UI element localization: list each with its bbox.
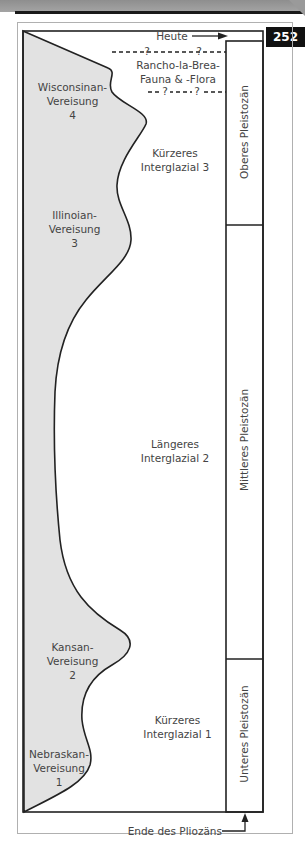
fauna-label-line2: Fauna & -Flora xyxy=(128,72,228,86)
interglacial-length: Kürzeres xyxy=(130,713,225,727)
pliozaen-arrow-line xyxy=(222,820,245,831)
interglacial-length: Kürzeres xyxy=(130,146,220,160)
glaciation-number: 1 xyxy=(24,775,94,789)
glaciation-number: 3 xyxy=(32,236,117,250)
glaciation-label-1: Nebraskan- Vereisung 1 xyxy=(24,747,94,789)
heute-label: Heute xyxy=(152,29,192,43)
glaciation-label-4: Wisconsinan- Vereisung 4 xyxy=(30,80,115,122)
glaciation-type: Vereisung xyxy=(24,761,94,775)
fauna-label: Rancho-la-Brea- Fauna & -Flora xyxy=(128,58,228,86)
uncertainty-mark: ? xyxy=(160,84,170,98)
interglacial-label-3: Kürzeres Interglazial 3 xyxy=(130,146,220,174)
fauna-label-line1: Rancho-la-Brea- xyxy=(128,58,228,72)
interglacial-name: Interglazial 3 xyxy=(130,160,220,174)
epoch-label-upper: Oberes Pleistozän xyxy=(238,82,250,182)
glaciation-name: Illinoian- xyxy=(32,208,117,222)
interglacial-label-1: Kürzeres Interglazial 1 xyxy=(130,713,225,741)
pliozaen-arrow-head xyxy=(242,813,249,822)
uncertainty-mark: ? xyxy=(142,44,152,58)
glaciation-number: 2 xyxy=(30,668,115,682)
glaciation-type: Vereisung xyxy=(32,222,117,236)
interglacial-name: Interglazial 2 xyxy=(125,451,225,465)
glaciation-name: Wisconsinan- xyxy=(30,80,115,94)
glaciation-name: Nebraskan- xyxy=(24,747,94,761)
glaciation-type: Vereisung xyxy=(30,94,115,108)
pliozaen-end-label: Ende des Pliozäns xyxy=(120,824,222,838)
uncertainty-mark: ? xyxy=(194,44,204,58)
glaciation-number: 4 xyxy=(30,108,115,122)
epoch-label-lower: Unteres Pleistozän xyxy=(238,674,250,794)
glaciation-label-2: Kansan- Vereisung 2 xyxy=(30,640,115,682)
glaciation-type: Vereisung xyxy=(30,654,115,668)
glaciation-label-3: Illinoian- Vereisung 3 xyxy=(32,208,117,250)
epoch-label-middle: Mittleres Pleistozän xyxy=(238,380,250,500)
glaciation-name: Kansan- xyxy=(30,640,115,654)
interglacial-length: Längeres xyxy=(125,437,225,451)
interglacial-name: Interglazial 1 xyxy=(130,727,225,741)
uncertainty-mark: ? xyxy=(192,84,202,98)
ice-extent-area xyxy=(23,31,146,812)
interglacial-label-2: Längeres Interglazial 2 xyxy=(125,437,225,465)
heute-arrow-head xyxy=(218,33,228,40)
